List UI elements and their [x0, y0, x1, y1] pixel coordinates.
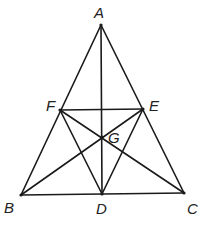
- segment-ed: [102, 109, 143, 194]
- diagram-canvas: A B C D E F G: [0, 0, 201, 236]
- label-e: E: [149, 97, 160, 114]
- geometry-diagram: A B C D E F G: [0, 0, 201, 236]
- point-g: [100, 135, 103, 138]
- label-a: A: [93, 4, 104, 21]
- point-d: [100, 192, 103, 195]
- point-e: [141, 107, 144, 110]
- label-c: C: [187, 200, 198, 217]
- point-c: [182, 191, 185, 194]
- label-b: B: [4, 199, 14, 216]
- point-b: [19, 193, 22, 196]
- label-f: F: [46, 97, 56, 114]
- label-g: G: [108, 129, 120, 146]
- segment-fd: [60, 110, 102, 194]
- segment-be: [21, 109, 143, 195]
- point-a: [99, 23, 102, 26]
- point-f: [58, 108, 61, 111]
- label-d: D: [96, 200, 107, 217]
- segment-fe: [60, 109, 143, 110]
